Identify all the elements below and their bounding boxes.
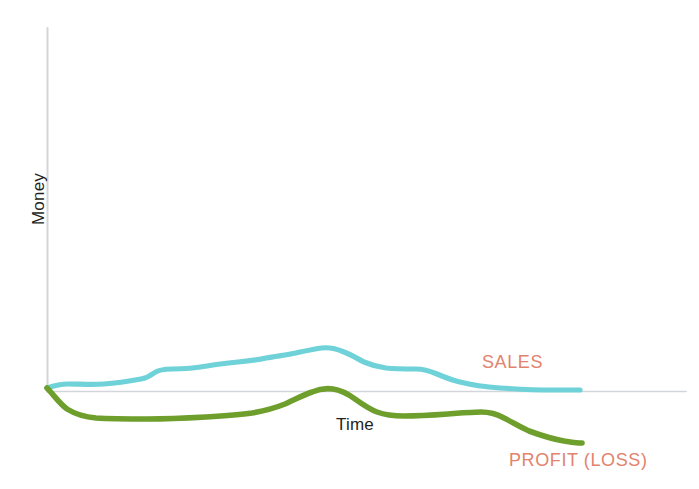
y-axis-label: Money [11, 113, 31, 165]
x-axis-label: Time [336, 415, 374, 435]
sales-profit-line-chart: Money Time SALES PROFIT (LOSS) [0, 0, 699, 489]
sales-series-label: SALES [482, 352, 543, 373]
y-axis-label-text: Money [29, 173, 49, 225]
profit-loss-series-label: PROFIT (LOSS) [509, 450, 648, 471]
profit-loss-line-series [47, 388, 582, 443]
